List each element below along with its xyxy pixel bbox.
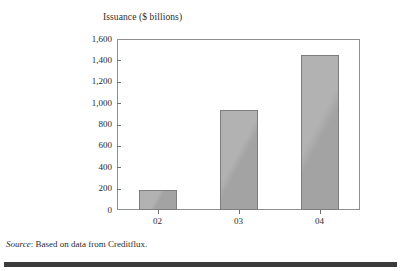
chart-figure: Issuance ($ billions) 02004006008001,000…: [0, 0, 401, 271]
y-axis-tick: [117, 60, 121, 61]
bar-fill: [140, 191, 176, 209]
y-axis-tick-label: 400: [72, 163, 112, 172]
y-axis-tick: [117, 189, 121, 190]
y-axis-tick: [117, 82, 121, 83]
x-axis-tick-label: 04: [300, 216, 340, 226]
plot-area: [117, 39, 360, 210]
bar-fill: [302, 56, 338, 209]
x-axis-tick: [320, 210, 321, 214]
y-axis-tick-label: 200: [72, 184, 112, 193]
y-axis-tick-label: 1,000: [72, 99, 112, 108]
bar-fill: [221, 111, 257, 209]
source-label: Source: [6, 239, 31, 249]
bar: [139, 190, 177, 210]
y-axis-tick: [117, 125, 121, 126]
source-note: Source: Based on data from Creditflux.: [6, 239, 147, 250]
y-axis-tick: [117, 103, 121, 104]
x-axis-tick-label: 03: [219, 216, 259, 226]
bottom-rule: [4, 262, 397, 267]
y-axis-tick-label: 1,400: [72, 56, 112, 65]
y-axis-tick: [117, 146, 121, 147]
x-axis-tick-label: 02: [138, 216, 178, 226]
bar: [301, 55, 339, 210]
source-text: Based on data from Creditflux.: [35, 239, 147, 249]
chart-axis-title: Issuance ($ billions): [103, 12, 182, 22]
x-axis-tick: [158, 210, 159, 214]
y-axis-tick-labels: 02004006008001,0001,2001,4001,600: [70, 0, 112, 271]
bar: [220, 110, 258, 210]
x-axis-tick: [239, 210, 240, 214]
y-axis-tick-label: 600: [72, 141, 112, 150]
y-axis-tick-label: 1,200: [72, 77, 112, 86]
y-axis-tick-label: 0: [72, 206, 112, 215]
y-axis-tick: [117, 167, 121, 168]
x-axis-tick-labels: 020304: [117, 216, 360, 230]
y-axis-tick-label: 800: [72, 120, 112, 129]
y-axis-tick-label: 1,600: [72, 35, 112, 44]
